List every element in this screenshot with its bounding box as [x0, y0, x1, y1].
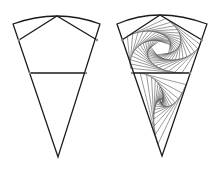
vertex-dot [85, 72, 87, 74]
wedge-diagram [0, 0, 218, 173]
spiral-wedge-panel [117, 15, 207, 156]
vertex-dot [121, 39, 123, 41]
pentagon-spiral-line [130, 22, 198, 72]
vertex-dot [29, 72, 31, 74]
wedge-outline [13, 16, 100, 157]
vertex-dot [18, 39, 20, 41]
vertex-dot [96, 39, 98, 41]
plain-wedge-panel [13, 16, 100, 157]
vertex-dot [189, 72, 191, 74]
vertex-dot [131, 72, 133, 74]
pentagon-spiral-line [127, 19, 200, 74]
vertex-dot [201, 39, 203, 41]
triangle-spiral-line [140, 73, 186, 144]
